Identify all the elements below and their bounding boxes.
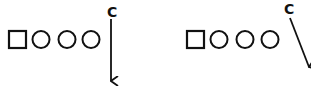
route-arrow-diagonal-icon (290, 18, 309, 67)
right-diagram: C (187, 1, 309, 67)
square-player-icon (187, 31, 204, 48)
left-diagram: C (9, 4, 117, 81)
player-label-c: C (107, 4, 117, 20)
circle-player-icon (211, 31, 228, 48)
circle-player-icon (33, 31, 50, 48)
square-player-icon (9, 31, 26, 48)
circle-player-icon (83, 31, 100, 48)
player-label-c: C (284, 1, 294, 17)
circle-player-icon (262, 31, 279, 48)
circle-player-icon (237, 31, 254, 48)
circle-player-icon (59, 31, 76, 48)
formation-diagrams: C C (0, 0, 311, 104)
